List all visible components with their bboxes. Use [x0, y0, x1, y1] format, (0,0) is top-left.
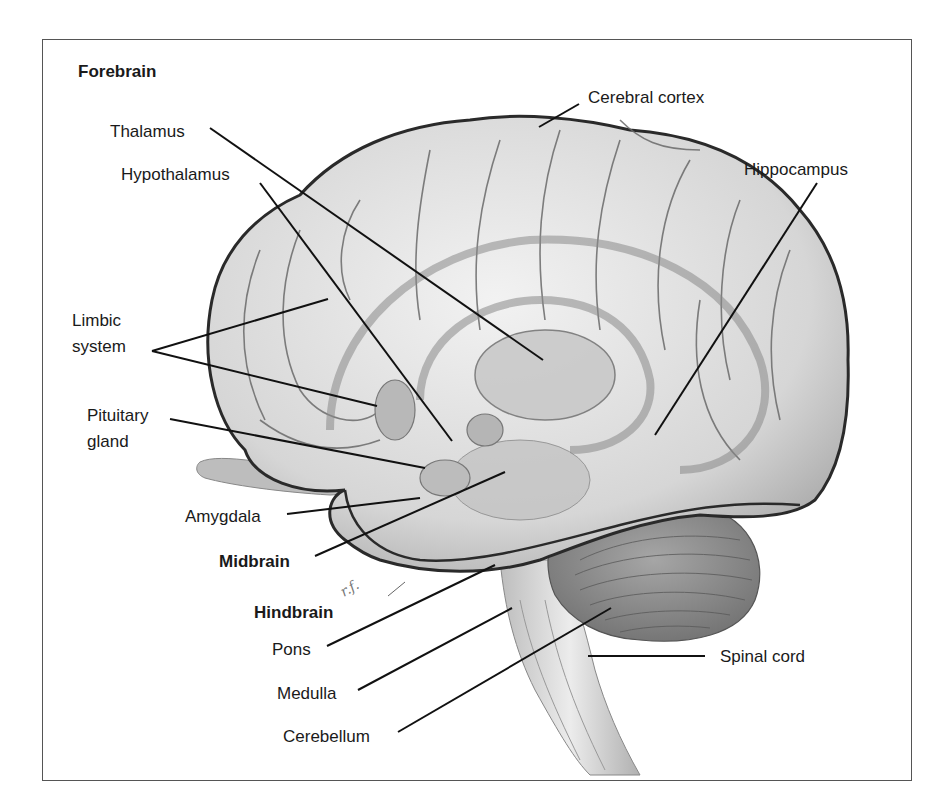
label-limbic-system: Limbic system	[72, 308, 126, 360]
label-pituitary-gland: Pituitary gland	[87, 403, 148, 455]
label-hypothalamus: Hypothalamus	[121, 165, 230, 185]
label-pons: Pons	[272, 640, 311, 660]
section-midbrain: Midbrain	[219, 552, 290, 572]
label-medulla: Medulla	[277, 684, 337, 704]
brain-illustration	[0, 0, 945, 803]
section-forebrain: Forebrain	[78, 62, 156, 82]
label-hippocampus: Hippocampus	[744, 160, 848, 180]
label-thalamus: Thalamus	[110, 122, 185, 142]
section-hindbrain: Hindbrain	[254, 603, 333, 623]
label-cerebral-cortex: Cerebral cortex	[588, 88, 704, 108]
thalamus-icon	[475, 330, 615, 420]
label-amygdala: Amygdala	[185, 507, 261, 527]
label-spinal-cord: Spinal cord	[720, 647, 805, 667]
label-cerebellum: Cerebellum	[283, 727, 370, 747]
